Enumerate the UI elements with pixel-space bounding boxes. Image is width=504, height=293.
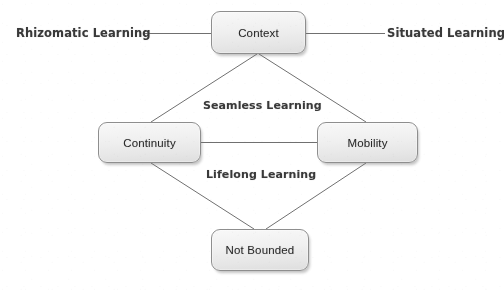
diagram-canvas: Context Continuity Mobility Not Bounded … bbox=[0, 0, 504, 293]
node-not-bounded-label: Not Bounded bbox=[226, 244, 295, 256]
node-continuity[interactable]: Continuity bbox=[98, 122, 201, 163]
node-continuity-label: Continuity bbox=[123, 137, 176, 149]
edge-label-seamless-learning: Seamless Learning bbox=[203, 99, 322, 112]
node-context-label: Context bbox=[238, 27, 279, 39]
edge-label-rhizomatic-learning: Rhizomatic Learning bbox=[16, 26, 151, 40]
node-context[interactable]: Context bbox=[211, 11, 306, 54]
edge-label-lifelong-learning: Lifelong Learning bbox=[206, 168, 316, 181]
node-mobility-label: Mobility bbox=[347, 137, 387, 149]
edge-label-situated-learning: Situated Learning bbox=[387, 26, 504, 40]
node-mobility[interactable]: Mobility bbox=[317, 122, 418, 163]
node-not-bounded[interactable]: Not Bounded bbox=[211, 229, 309, 271]
